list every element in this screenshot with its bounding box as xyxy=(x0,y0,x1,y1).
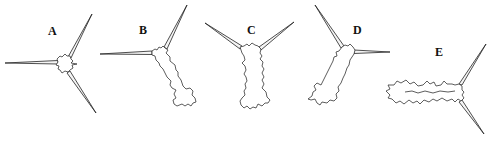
panel-label-a: A xyxy=(48,25,57,37)
panel-label-d: D xyxy=(353,24,362,36)
figure-drawing xyxy=(0,0,489,143)
panel-label-c: C xyxy=(247,24,256,36)
panel-label-b: B xyxy=(139,24,147,36)
panel-label-e: E xyxy=(435,46,443,58)
spicule-b xyxy=(100,5,196,106)
spicule-figure: A B C D E xyxy=(0,0,489,143)
spicule-d xyxy=(308,5,390,105)
